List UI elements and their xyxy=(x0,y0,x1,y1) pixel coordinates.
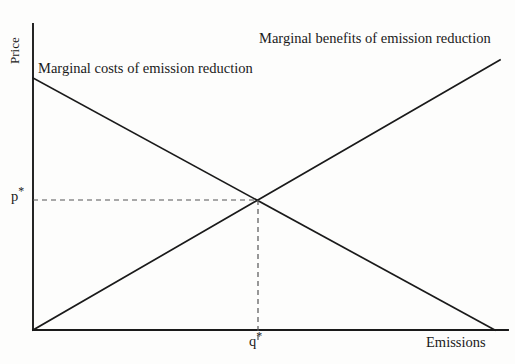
emissions-reduction-diagram: Price Marginal costs of emission reducti… xyxy=(0,0,515,364)
price-tick-star: * xyxy=(18,184,24,198)
y-axis-label: Price xyxy=(8,37,21,64)
diagram-canvas xyxy=(0,0,515,364)
marginal-costs-curve-label: Marginal costs of emission reduction xyxy=(38,61,253,76)
quantity-tick-star: * xyxy=(256,329,262,343)
quantity-equilibrium-tick-label: q* xyxy=(249,334,262,349)
marginal-benefits-curve-label: Marginal benefits of emission reduction xyxy=(259,31,491,46)
x-axis-label: Emissions xyxy=(426,335,486,350)
price-equilibrium-tick-label: p* xyxy=(11,189,24,204)
marginal-costs-curve xyxy=(33,78,495,330)
marginal-benefits-curve xyxy=(33,60,500,330)
